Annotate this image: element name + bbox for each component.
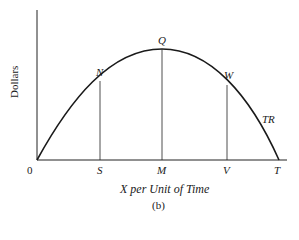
curve-label-TR: TR (262, 114, 275, 125)
x-tick-T: T (274, 165, 280, 176)
y-axis-label: Dollars (8, 66, 20, 98)
figure-caption: (b) (152, 200, 165, 211)
origin-label: 0 (27, 165, 33, 176)
x-tick-S: S (97, 165, 103, 176)
point-label-W: W (224, 70, 233, 81)
x-axis-label: X per Unit of Time (120, 183, 209, 195)
x-tick-V: V (223, 165, 230, 176)
tr-curve-line (37, 49, 279, 160)
point-label-N: N (96, 67, 103, 78)
x-tick-M: M (157, 165, 166, 176)
point-label-Q: Q (158, 35, 166, 46)
